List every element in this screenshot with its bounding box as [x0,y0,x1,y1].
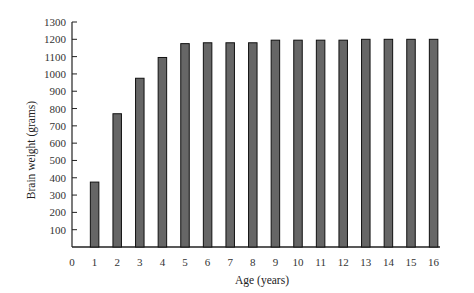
y-tick-label: 800 [50,103,67,115]
bar-age-16 [429,39,438,247]
bar-age-6 [203,43,212,247]
x-tick-label: 4 [160,256,166,268]
x-tick-label: 3 [137,256,143,268]
x-tick-label: 13 [360,256,372,268]
x-tick-label: 9 [273,256,279,268]
x-tick-label: 6 [205,256,211,268]
bar-chart: 1002003004005006007008009001000110012001… [0,0,474,293]
x-axis-title: Age (years) [235,274,289,287]
y-axis-title: Brain weight (grams) [25,101,38,200]
x-tick-label: 11 [315,256,326,268]
x-tick-label: 12 [338,256,349,268]
bar-age-9 [271,40,280,247]
bar-age-12 [339,40,348,247]
bar-age-2 [113,114,122,247]
bar-age-8 [249,43,257,247]
y-tick-label: 900 [50,85,67,97]
x-tick-label: 0 [69,256,75,268]
bar-age-5 [181,44,190,247]
x-tick-label: 15 [406,256,418,268]
bar-age-3 [136,78,145,247]
x-tick-label: 1 [92,256,98,268]
x-tick-label: 10 [293,256,305,268]
y-tick-label: 700 [50,120,67,132]
bar-age-11 [316,40,325,247]
bar-age-1 [90,182,99,247]
bar-age-15 [407,39,416,247]
bar-age-14 [384,39,393,247]
y-tick-label: 100 [50,224,67,236]
bar-age-13 [362,39,371,247]
y-tick-label: 1100 [44,51,66,63]
x-tick-label: 7 [227,256,233,268]
bars [90,39,438,247]
y-axis: 1002003004005006007008009001000110012001… [44,16,77,247]
y-tick-label: 1000 [44,68,67,80]
y-tick-label: 600 [50,137,67,149]
y-tick-label: 400 [50,172,67,184]
x-tick-label: 2 [114,256,120,268]
bar-age-10 [294,40,303,247]
y-tick-label: 1300 [44,16,67,28]
x-tick-label: 16 [428,256,440,268]
x-tick-label: 14 [383,256,395,268]
x-tick-label: 8 [250,256,256,268]
bar-age-7 [226,43,235,247]
y-tick-label: 200 [50,206,67,218]
x-tick-label: 5 [182,256,188,268]
y-tick-label: 300 [50,189,67,201]
x-axis: 012345678910111213141516 [69,247,440,268]
y-tick-label: 500 [50,154,67,166]
y-tick-label: 1200 [44,33,67,45]
bar-age-4 [158,57,167,247]
